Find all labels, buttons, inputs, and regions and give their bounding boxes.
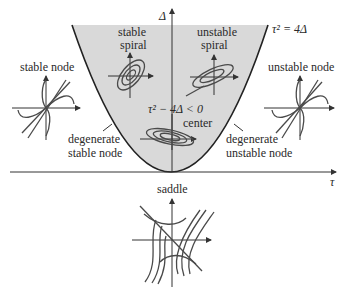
delta-axis-label: Δ	[158, 9, 166, 23]
stable-node-portrait: stable node	[12, 60, 80, 140]
unstable-spiral-label-1: unstable	[197, 25, 237, 39]
degenerate-unstable-label-2: unstable node	[226, 146, 292, 160]
unstable-node-portrait: unstable node	[264, 60, 334, 140]
region-inequality: τ² − 4Δ < 0	[148, 102, 203, 116]
saddle-label: saddle	[157, 182, 188, 196]
degenerate-stable-label-1: degenerate	[68, 132, 120, 146]
tau-axis-label: τ	[330, 175, 335, 189]
degenerate-stable-node-annotation: degenerate stable node	[68, 124, 122, 160]
boundary-curve-label: τ² = 4Δ	[272, 22, 307, 36]
degenerate-unstable-label-1: degenerate	[226, 132, 278, 146]
unstable-spiral-label-2: spiral	[201, 38, 228, 52]
trace-determinant-diagram: Δ τ τ² = 4Δ stable spiral unstable spira…	[0, 0, 349, 303]
center-label: center	[183, 116, 212, 130]
stable-node-label: stable node	[20, 60, 74, 74]
degenerate-stable-label-2: stable node	[68, 146, 122, 160]
stable-spiral-label-2: spiral	[120, 38, 147, 52]
saddle-portrait: saddle	[132, 182, 214, 287]
stable-spiral-label-1: stable	[118, 25, 146, 39]
unstable-node-label: unstable node	[268, 60, 334, 74]
degenerate-unstable-node-annotation: degenerate unstable node	[226, 124, 292, 160]
